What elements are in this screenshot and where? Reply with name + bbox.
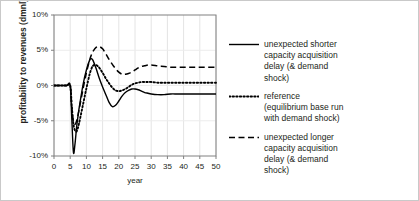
y-tick-label: -10% [18, 152, 48, 160]
legend-swatch-dashed [229, 132, 259, 143]
x-axis-title: year [54, 177, 216, 185]
legend-label: reference (equilibrium base run with dem… [264, 91, 343, 125]
legend-label: unexpected shorter capacity acquisition … [264, 39, 338, 84]
plot-canvas [1, 1, 231, 201]
legend-entry: unexpected longer capacity acquisition d… [229, 132, 417, 177]
legend-swatch-dotted [229, 91, 259, 102]
chart-legend: unexpected shorter capacity acquisition … [229, 39, 417, 183]
chart-figure: 10%5%0%-5%-10% 05101520253035404550 prof… [0, 0, 419, 201]
plot-area: 10%5%0%-5%-10% 05101520253035404550 prof… [1, 1, 231, 201]
x-tick-label: 50 [206, 163, 226, 171]
legend-swatch-solid [229, 39, 259, 50]
legend-entry: reference (equilibrium base run with dem… [229, 91, 417, 125]
legend-label: unexpected longer capacity acquisition d… [264, 132, 338, 177]
y-axis-title: profitability to revenues (dmnl) [19, 0, 28, 131]
legend-entry: unexpected shorter capacity acquisition … [229, 39, 417, 84]
